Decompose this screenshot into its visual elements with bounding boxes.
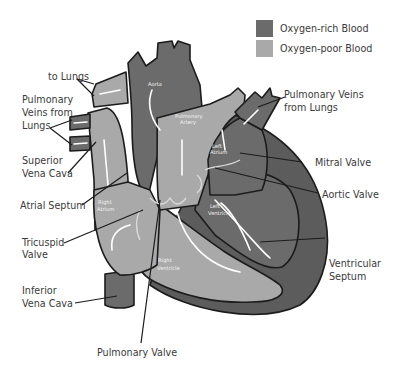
label-pulm-veins-left-1: Pulmonary xyxy=(22,94,73,105)
legend: Oxygen-rich Blood Oxygen-poor Blood xyxy=(256,20,372,57)
flow-arrow-pv-left1 xyxy=(74,122,87,123)
label-superior-vena-cava-1: Superior xyxy=(22,155,63,166)
flow-arrow-pv-left2 xyxy=(74,143,87,144)
inner-label-right-atrium-1: Right xyxy=(98,199,112,206)
inner-label-right-ventricle-2: Ventricle xyxy=(157,265,180,271)
right-atrium-shape xyxy=(94,182,160,275)
label-ventricular-septum-2: Septum xyxy=(329,271,366,282)
label-pulmonary-valve: Pulmonary Valve xyxy=(97,347,177,358)
inner-label-left-ventricle-2: Ventricle xyxy=(208,210,231,216)
label-pulm-veins-left-2: Veins from xyxy=(22,107,73,118)
inferior-vena-cava-shape xyxy=(105,270,134,308)
legend-label-oxygen-poor: Oxygen-poor Blood xyxy=(280,43,372,54)
pulmonary-artery-to-lungs-left xyxy=(92,72,128,107)
label-ventricular-septum-1: Ventricular xyxy=(329,258,381,269)
inner-label-aorta: Aorta xyxy=(148,81,162,87)
label-tricuspid-valve-1: Tricuspid xyxy=(21,237,64,248)
label-pulm-veins-left-3: Lungs xyxy=(22,120,50,131)
label-inferior-vena-cava-2: Vena Cava xyxy=(22,298,73,309)
label-pulm-veins-right-1: Pulmonary Veins xyxy=(284,89,364,100)
label-mitral-valve: Mitral Valve xyxy=(315,157,371,168)
legend-label-oxygen-rich: Oxygen-rich Blood xyxy=(280,23,369,34)
label-tricuspid-valve-2: Valve xyxy=(22,249,48,260)
label-pulm-veins-right-2: from Lungs xyxy=(284,102,338,113)
inner-label-right-atrium-2: Atrium xyxy=(97,206,114,212)
inner-label-left-atrium-2: Atrium xyxy=(210,149,227,155)
label-superior-vena-cava-2: Vena Cava xyxy=(22,168,73,179)
heart-diagram: Oxygen-rich Blood Oxygen-poor Blood xyxy=(0,0,393,379)
heart-svg: Oxygen-rich Blood Oxygen-poor Blood xyxy=(0,0,393,379)
inner-label-right-ventricle-1: Right xyxy=(158,257,172,264)
inner-label-left-ventricle-1: Left xyxy=(210,203,220,209)
label-atrial-septum: Atrial Septum xyxy=(20,200,86,211)
legend-swatch-oxygen-poor xyxy=(256,40,273,57)
label-to-lungs: to Lungs xyxy=(48,71,89,82)
label-aortic-valve: Aortic Valve xyxy=(322,189,379,200)
legend-swatch-oxygen-rich xyxy=(256,20,273,37)
inner-label-pulm-artery-2: Artery xyxy=(180,119,196,126)
label-inferior-vena-cava-1: Inferior xyxy=(22,285,57,296)
